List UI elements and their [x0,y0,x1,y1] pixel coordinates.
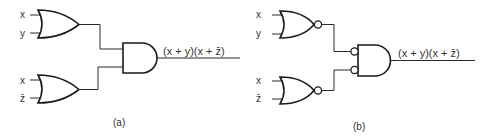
logic-diagram: x y x z̄ (x + y)(x + z̄) (a) x [0,0,493,140]
nor-gate-1-icon: x y [256,9,322,39]
output-expression: (x + y)(x + z̄) [398,47,460,59]
wire [322,70,351,91]
panel-a: x y x z̄ (x + y)(x + z̄) (a) [20,9,240,128]
input-label: x [20,9,25,20]
wire [322,25,351,52]
input-label: y [256,28,261,39]
input-label: z̄ [256,93,261,104]
or-gate-2-icon: x z̄ [20,75,79,104]
wire [79,67,123,90]
caption-a: (a) [113,117,125,128]
wire [79,25,123,50]
caption-b: (b) [353,121,365,132]
or-gate-1-icon: x y [20,9,79,39]
input-label: z̄ [20,93,25,104]
nor-gate-2-icon: x z̄ [256,75,322,104]
input-label: y [20,28,25,39]
input-label: x [256,9,261,20]
output-expression: (x + y)(x + z̄) [163,45,225,57]
panel-b: x y x z̄ (x + y)(x + z̄) (b) [256,9,475,132]
input-label: x [256,75,261,86]
input-label: x [20,75,25,86]
